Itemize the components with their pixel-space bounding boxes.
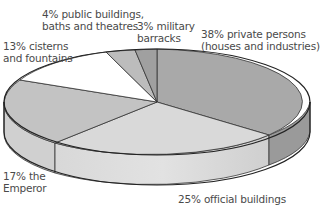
label-line: 25% official buildings [178, 193, 286, 205]
label-emperor: 17% the Emperor [3, 170, 46, 194]
label-line: 13% cisterns [3, 40, 73, 52]
label-line: 17% the [3, 170, 46, 182]
label-line: 4% public buildings, [42, 8, 144, 20]
label-private: 38% private persons (houses and industri… [201, 28, 320, 52]
label-line: baths and theatres [42, 20, 144, 32]
label-line: 3% military [137, 20, 195, 32]
label-military: 3% military barracks [137, 20, 195, 44]
label-official: 25% official buildings [178, 193, 286, 205]
label-line: barracks [137, 32, 195, 44]
label-line: and fountains [3, 52, 73, 64]
label-line: Emperor [3, 182, 46, 194]
label-cisterns: 13% cisterns and fountains [3, 40, 73, 64]
label-public: 4% public buildings, baths and theatres [42, 8, 144, 32]
label-line: 38% private persons [201, 28, 320, 40]
label-line: (houses and industries) [201, 40, 320, 52]
